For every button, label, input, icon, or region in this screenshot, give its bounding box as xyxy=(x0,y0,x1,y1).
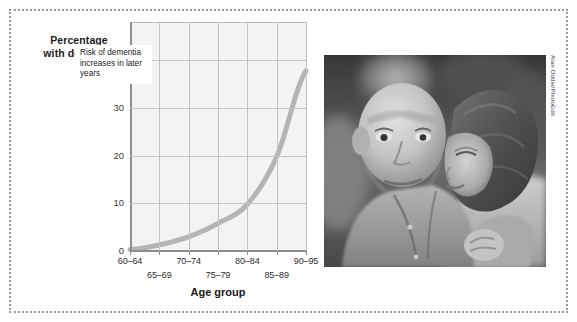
photo-credit: Alan Oddie/PhotoEdit xyxy=(550,55,562,267)
y-tick-label: 20 xyxy=(84,150,124,161)
chart-annotation: Risk of dementia increases in later year… xyxy=(75,45,152,84)
x-tick-mark xyxy=(130,251,131,255)
x-tick-label: 60–64 xyxy=(118,256,143,266)
x-tick-label: 80–84 xyxy=(235,256,260,266)
x-tick-mark xyxy=(247,251,248,255)
x-gridline xyxy=(218,22,219,251)
x-tick-mark xyxy=(218,251,219,255)
y-gridline xyxy=(130,203,306,204)
x-tick-mark xyxy=(306,251,307,255)
x-tick-mark xyxy=(159,251,160,255)
dementia-line-chart: Percentage with dementia 010203040% 60–6… xyxy=(26,18,316,308)
x-tick-label: 65–69 xyxy=(147,270,172,280)
photograph-block: Alan Oddie/PhotoEdit xyxy=(324,55,546,267)
x-gridline xyxy=(189,22,190,251)
y-gridline xyxy=(130,60,306,61)
x-tick-label: 75–79 xyxy=(206,270,231,280)
y-tick-label: 0 xyxy=(84,245,124,256)
x-tick-mark xyxy=(277,251,278,255)
x-axis-title: Age group xyxy=(130,286,306,298)
x-gridline xyxy=(306,22,307,251)
x-tick-label: 70–74 xyxy=(176,256,201,266)
photograph xyxy=(324,55,546,267)
y-tick-label: 10 xyxy=(84,197,124,208)
x-tick-mark xyxy=(189,251,190,255)
x-gridline xyxy=(159,22,160,251)
y-gridline xyxy=(130,156,306,157)
x-tick-label: 90–95 xyxy=(294,256,319,266)
x-gridline xyxy=(277,22,278,251)
y-tick-label: 30 xyxy=(84,102,124,113)
figure-root: Percentage with dementia 010203040% 60–6… xyxy=(0,0,577,322)
x-tick-label: 85–89 xyxy=(264,270,289,280)
photograph-image xyxy=(324,55,546,267)
y-gridline xyxy=(130,108,306,109)
x-gridline xyxy=(247,22,248,251)
